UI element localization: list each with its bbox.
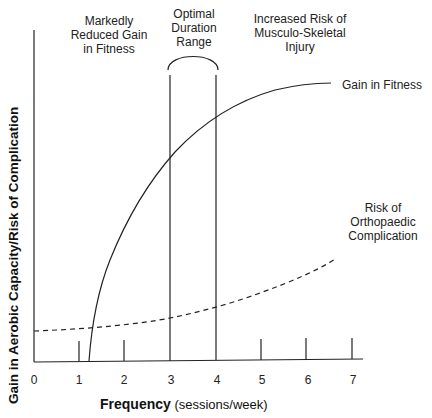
series-label-line: Complication	[338, 229, 428, 243]
series-label-line: Risk of	[338, 201, 428, 215]
reduced-gain-annotation: Markedly Reduced Gain in Fitness	[54, 14, 164, 56]
x-axis-title-unit: (sessions/week)	[171, 397, 268, 412]
annotation-line: Duration	[158, 21, 230, 35]
gain-in-fitness-curve	[89, 83, 331, 361]
optimal-range-annotation: Optimal Duration Range	[158, 7, 230, 49]
x-tick-label: 4	[207, 373, 227, 387]
x-tick-label: 6	[298, 373, 318, 387]
x-tick-label: 5	[252, 373, 272, 387]
gain-series-label: Gain in Fitness	[342, 78, 432, 92]
x-axis-title: Frequency (sessions/week)	[100, 396, 268, 412]
annotation-line: Reduced Gain	[54, 28, 164, 42]
series-label-line: Orthopaedic	[338, 215, 428, 229]
risk-series-label: Risk of Orthopaedic Complication	[338, 201, 428, 243]
x-axis-title-main: Frequency	[100, 396, 171, 412]
x-tick-label: 1	[69, 373, 89, 387]
increased-risk-annotation: Increased Risk of Musculo-Skeletal Injur…	[245, 12, 355, 54]
annotation-line: Range	[158, 35, 230, 49]
series-label-text: Gain in Fitness	[342, 78, 432, 92]
annotation-line: Optimal	[158, 7, 230, 21]
annotation-line: Musculo-Skeletal	[245, 26, 355, 40]
x-tick-label: 2	[114, 373, 134, 387]
annotation-line: Increased Risk of	[245, 12, 355, 26]
y-axis-title: Gain in Aerobic Capacity/Risk of Complic…	[6, 24, 21, 404]
x-tick-label: 3	[161, 373, 181, 387]
optimal-range-bracket	[168, 57, 218, 71]
orthopaedic-risk-curve	[34, 258, 337, 331]
x-tick-label: 7	[343, 373, 363, 387]
x-tick-label: 0	[24, 373, 44, 387]
annotation-line: Injury	[245, 40, 355, 54]
x-axis	[34, 359, 363, 362]
annotation-line: in Fitness	[54, 42, 164, 56]
annotation-line: Markedly	[54, 14, 164, 28]
